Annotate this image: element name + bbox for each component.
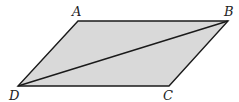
- vertex-label-a: A: [71, 4, 81, 19]
- vertex-label-d: D: [8, 88, 20, 102]
- vertex-label-b: B: [223, 4, 234, 19]
- parallelogram-diagram: A B C D: [0, 0, 239, 102]
- vertex-label-c: C: [163, 88, 173, 102]
